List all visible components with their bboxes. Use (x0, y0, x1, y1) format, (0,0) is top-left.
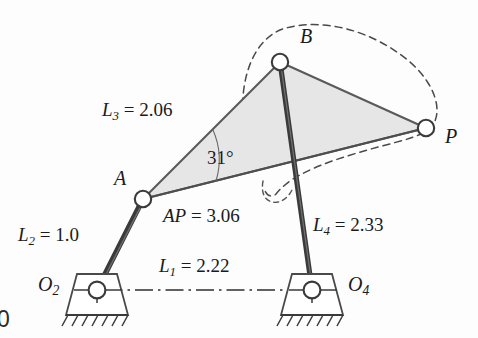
joint-label-o2: O2 (38, 274, 59, 294)
ground-support-o2 (62, 274, 128, 326)
joint-label-o4: O4 (348, 274, 369, 294)
linkage-figure: A B P O2 O4 L3 = 2.06 L2 = 1.0 L4 = 2.33… (0, 0, 478, 338)
coupler-angle-label: 31° (207, 148, 234, 167)
joint-b-pin (272, 54, 288, 70)
joint-label-a: A (114, 168, 126, 188)
dimension-label-l4: L4 = 2.33 (313, 215, 384, 234)
dimension-label-l3: L3 = 2.06 (102, 100, 173, 119)
dimension-label-l2: L2 = 1.0 (18, 225, 79, 244)
dimension-label-ap: AP = 3.06 (163, 206, 240, 225)
joint-label-p: P (445, 126, 457, 146)
dimension-label-l1: L1 = 2.22 (159, 256, 230, 275)
page-corner-mark: 0 (0, 306, 10, 333)
joint-p-pin (418, 120, 434, 136)
joint-a-pin (135, 191, 151, 207)
joint-label-b: B (300, 26, 312, 46)
linkage-diagram-svg (0, 0, 478, 338)
ground-support-o4 (277, 274, 343, 326)
